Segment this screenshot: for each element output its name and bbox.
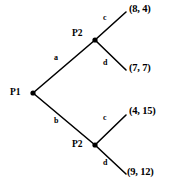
edge-label-b: b [54, 117, 58, 125]
tree-edges-layer [0, 0, 171, 187]
edge-label-a: a [54, 54, 58, 62]
payoff-label-ac: (8, 4) [129, 4, 151, 15]
edge-line-upper-d [95, 40, 126, 70]
node-label-p1: P1 [10, 88, 21, 98]
node-dot-lower [92, 142, 97, 147]
payoff-label-ad: (7, 7) [129, 63, 151, 74]
edge-line-root-to-lower [33, 93, 95, 145]
edge-label-c-upper: c [103, 14, 107, 22]
node-label-p2-upper: P2 [72, 29, 83, 39]
edge-line-root-to-upper [33, 40, 95, 93]
edge-line-lower-c [95, 115, 126, 145]
node-dot-root [30, 90, 35, 95]
edge-label-c-lower: c [103, 114, 107, 122]
edge-line-upper-c [95, 12, 126, 40]
node-dot-upper [92, 37, 97, 42]
edge-label-d-upper: d [103, 59, 107, 67]
edge-line-lower-d [95, 145, 126, 174]
payoff-label-bc: (4, 15) [129, 106, 156, 117]
edge-label-d-lower: d [103, 159, 107, 167]
node-dots [30, 37, 97, 147]
payoff-label-bd: (9, 12) [127, 167, 154, 178]
node-label-p2-lower: P2 [72, 140, 83, 150]
game-tree-diagram: P1 P2 P2 a b c d c d (8, 4) (7, 7) (4, 1… [0, 0, 171, 187]
